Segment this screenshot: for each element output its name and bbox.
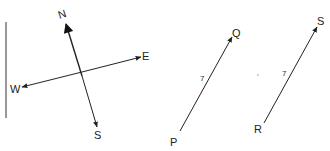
vector-pq-tick: 7 (200, 74, 205, 83)
south-label: S (94, 129, 101, 141)
west-label: W (10, 83, 21, 95)
vector-rs-tick: 7 (282, 69, 287, 78)
vector-rs-line (264, 27, 317, 123)
vector-pq: P Q 7 (170, 27, 241, 148)
vector-rs: R S 7 (254, 15, 324, 135)
south-arrow (82, 76, 97, 127)
stray-dot (257, 74, 258, 75)
diagram-canvas: N S E W P Q 7 R S 7 (0, 0, 330, 151)
point-s-label: S (317, 15, 324, 27)
north-label: N (56, 7, 67, 21)
point-q-label: Q (232, 27, 241, 39)
point-p-label: P (170, 136, 177, 148)
west-arrow (22, 72, 82, 87)
east-arrow (82, 57, 141, 72)
compass: N S E W (10, 7, 149, 141)
point-r-label: R (254, 123, 262, 135)
north-arrow (66, 24, 82, 76)
east-label: E (142, 50, 149, 62)
vector-pq-line (180, 37, 232, 131)
